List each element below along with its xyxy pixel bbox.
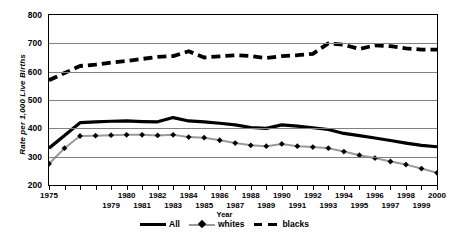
data-point-marker xyxy=(124,132,130,138)
data-point-marker xyxy=(186,134,192,140)
legend-label: whites xyxy=(218,220,244,229)
x-axis-tick xyxy=(96,186,97,190)
x-axis-tick xyxy=(220,186,221,190)
gridline xyxy=(49,72,437,73)
x-axis-tick-label: 1996 xyxy=(366,191,384,200)
x-axis-tick-label: 2000 xyxy=(428,191,446,200)
legend-label: blacks xyxy=(282,220,308,229)
data-point-marker xyxy=(139,132,145,138)
legend-item-whites[interactable]: whites xyxy=(189,220,244,229)
x-axis-tick xyxy=(251,186,252,190)
x-axis-tick-label: 1990 xyxy=(273,191,291,200)
x-axis-tick xyxy=(204,186,205,190)
data-point-marker xyxy=(217,137,223,143)
x-axis-tick xyxy=(111,186,112,190)
y-axis-tick-label: 700 xyxy=(0,39,42,47)
data-point-marker xyxy=(263,143,269,149)
x-axis-tick xyxy=(344,186,345,190)
x-axis-tick xyxy=(282,186,283,190)
x-axis-tick xyxy=(359,186,360,190)
x-axis-tick xyxy=(189,186,190,190)
x-axis-tick xyxy=(406,186,407,190)
x-axis-tick xyxy=(142,186,143,190)
y-axis-tick-label: 600 xyxy=(0,68,42,76)
y-axis-tick-label: 500 xyxy=(0,96,42,104)
x-axis-tick-label: 1975 xyxy=(40,191,58,200)
x-axis-tick xyxy=(158,186,159,190)
gridline xyxy=(49,43,437,44)
data-point-marker xyxy=(155,133,161,139)
x-axis-tick-label: 1979 xyxy=(102,201,120,210)
x-axis-tick xyxy=(80,186,81,190)
y-axis-tick-label: 300 xyxy=(0,153,42,161)
legend-swatch-icon xyxy=(189,220,215,229)
x-axis-tick-label: 1998 xyxy=(397,191,415,200)
data-point-marker xyxy=(108,132,114,138)
x-axis-tick-label: 1985 xyxy=(195,201,213,210)
x-axis-tick-label: 1994 xyxy=(335,191,353,200)
x-axis-tick-label: 1988 xyxy=(242,191,260,200)
data-point-marker xyxy=(388,159,394,165)
data-point-marker xyxy=(325,145,331,151)
x-axis-tick-label: 1989 xyxy=(257,201,275,210)
x-axis-tick xyxy=(127,186,128,190)
data-point-marker xyxy=(170,132,176,138)
x-axis-tick xyxy=(313,186,314,190)
gridline xyxy=(49,128,437,129)
x-axis-tick xyxy=(266,186,267,190)
x-axis-tick xyxy=(173,186,174,190)
x-axis-tick-label: 1987 xyxy=(226,201,244,210)
x-axis-tick xyxy=(297,186,298,190)
x-axis-tick-label: 1981 xyxy=(133,201,151,210)
x-axis-tick-label: 1992 xyxy=(304,191,322,200)
gridline xyxy=(49,100,437,101)
data-point-marker xyxy=(201,135,207,141)
x-axis-tick-label: 1997 xyxy=(382,201,400,210)
data-point-marker xyxy=(419,166,425,172)
x-axis-tick xyxy=(235,186,236,190)
x-axis-tick xyxy=(375,186,376,190)
x-axis-tick-label: 1986 xyxy=(211,191,229,200)
gridline xyxy=(49,157,437,158)
x-axis-tick xyxy=(49,186,50,190)
y-axis-tick-label: 200 xyxy=(0,181,42,189)
x-axis-tick-label: 1999 xyxy=(413,201,431,210)
data-point-marker xyxy=(279,141,285,147)
x-axis-tick xyxy=(421,186,422,190)
series-line-whites xyxy=(49,135,437,173)
legend-label: All xyxy=(169,220,180,229)
legend-item-all[interactable]: All xyxy=(140,220,180,229)
y-axis-tick-label: 800 xyxy=(0,11,42,19)
series-line-blacks xyxy=(49,43,437,80)
legend-item-blacks[interactable]: blacks xyxy=(253,220,308,229)
x-axis-tick xyxy=(437,186,438,190)
x-axis-tick xyxy=(65,186,66,190)
x-axis-tick-label: 1983 xyxy=(164,201,182,210)
x-axis-label: Year xyxy=(0,210,449,219)
chart-legend: Allwhitesblacks xyxy=(0,220,449,229)
legend-swatch-icon xyxy=(253,220,279,229)
data-point-marker xyxy=(341,149,347,155)
data-point-marker xyxy=(232,140,238,146)
x-axis-tick-label: 1993 xyxy=(319,201,337,210)
data-point-marker xyxy=(403,162,409,168)
x-axis-tick-label: 1982 xyxy=(149,191,167,200)
x-axis-tick xyxy=(328,186,329,190)
data-point-marker xyxy=(294,143,300,149)
data-point-marker xyxy=(310,144,316,150)
x-axis-tick-label: 1995 xyxy=(350,201,368,210)
x-axis-tick-label: 1984 xyxy=(180,191,198,200)
x-axis-tick-label: 1991 xyxy=(288,201,306,210)
data-point-marker xyxy=(248,142,254,148)
legend-swatch-icon xyxy=(140,220,166,229)
x-axis-tick-label: 1980 xyxy=(118,191,136,200)
y-axis-tick-label: 400 xyxy=(0,124,42,132)
chart-figure: Rate per 1,000 Live Births 8007006005004… xyxy=(0,0,449,236)
data-point-marker xyxy=(434,170,437,176)
data-point-marker xyxy=(93,133,99,139)
plot-area xyxy=(48,14,438,186)
x-axis-tick xyxy=(390,186,391,190)
